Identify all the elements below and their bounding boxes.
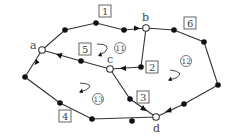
node-label: d (153, 122, 160, 135)
region-label-12: 12 (181, 56, 192, 67)
node-label: b (142, 11, 149, 24)
node-c: c (107, 53, 114, 72)
edge-label-5: 5 (79, 43, 91, 55)
edge-label-4: 4 (59, 110, 71, 122)
arrow-icon (56, 53, 63, 59)
region-label-11: 11 (115, 43, 126, 54)
junction-dots (22, 20, 221, 124)
svg-text:13: 13 (94, 95, 104, 104)
edge-4 (25, 50, 156, 119)
arrow-icon (140, 105, 147, 111)
edge-5 (42, 50, 110, 69)
edge-label-2: 2 (146, 61, 158, 73)
svg-text:11: 11 (116, 44, 126, 53)
arrow-icon (134, 26, 140, 32)
node-a: a (30, 39, 45, 53)
arrow-icon (120, 66, 126, 72)
svg-text:12: 12 (182, 57, 192, 66)
node-b: b (142, 11, 149, 31)
curl-arrow-icon-12 (168, 70, 180, 81)
node-label: a (30, 39, 37, 52)
curl-arrow-icon-11 (97, 44, 107, 57)
node-d: d (153, 114, 160, 135)
network-diagram: a b c d 1 2 3 4 5 6 11 12 (0, 0, 232, 138)
region-label-13: 13 (93, 94, 104, 105)
edge-label-1: 1 (99, 5, 111, 17)
svg-text:1: 1 (102, 6, 108, 17)
edge-label-6: 6 (184, 17, 196, 29)
svg-text:3: 3 (140, 92, 146, 103)
svg-text:2: 2 (149, 62, 155, 73)
svg-text:4: 4 (62, 111, 68, 122)
edge-label-3: 3 (137, 91, 149, 103)
arrow-icon (165, 107, 172, 113)
node-label: c (107, 53, 113, 66)
curl-arrow-icon-13 (79, 83, 90, 93)
svg-text:6: 6 (187, 18, 193, 29)
edge-1 (42, 23, 146, 50)
svg-text:5: 5 (82, 44, 88, 55)
